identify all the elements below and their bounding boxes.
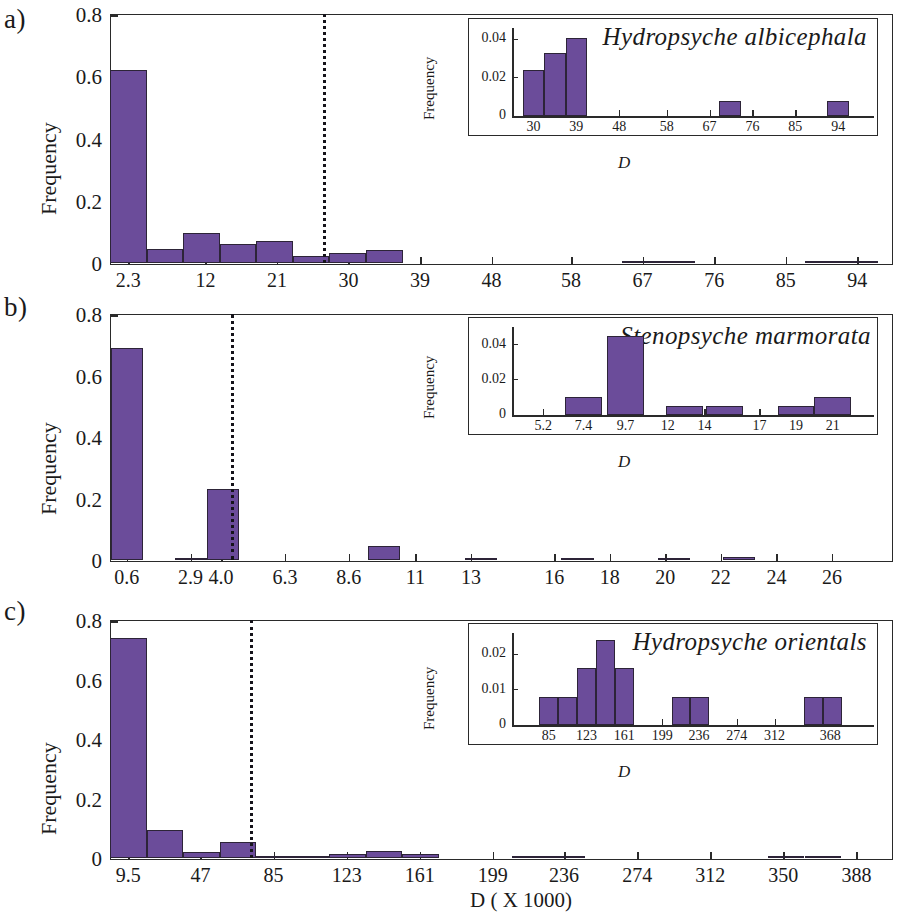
histogram-bar	[256, 241, 293, 263]
panel-a-ytick-mark	[110, 15, 118, 17]
inset-b-yaxis	[512, 327, 514, 415]
figure-xlabel: D ( X 1000)	[470, 888, 572, 913]
panel-b-xtick-mark	[349, 554, 351, 562]
panel-c-xtick-mark	[637, 852, 639, 860]
panel-c-xtick-mark	[856, 852, 858, 860]
panel-b-ytick: 0.6	[76, 365, 102, 390]
panel-b: b) Frequency Stenopsyche marmorata Frequ…	[0, 290, 899, 590]
inset-histogram-bar	[558, 697, 577, 725]
panel-a-xtick-mark	[786, 257, 788, 265]
panel-c-ytick: 0.6	[76, 669, 102, 694]
inset-histogram-bar	[778, 406, 815, 415]
inset-b-ytick-mark	[512, 379, 518, 380]
panel-a-ytick: 0.2	[76, 190, 102, 215]
inset-a-xtick-mark	[795, 110, 796, 116]
panel-c-xtick: 47	[160, 864, 240, 887]
histogram-bar	[183, 852, 220, 859]
inset-histogram-bar	[804, 697, 823, 725]
histogram-bar	[183, 233, 220, 263]
inset-histogram-bar	[565, 397, 602, 415]
histogram-bar	[465, 558, 497, 561]
panel-c-xtick: 274	[597, 864, 677, 887]
histogram-bar	[220, 244, 257, 264]
panel-a-xtick: 67	[603, 269, 683, 292]
panel-c-ytick: 0.4	[76, 728, 102, 753]
histogram-bar	[658, 261, 695, 264]
inset-a-xtick-mark	[752, 110, 753, 116]
inset-histogram-bar	[706, 406, 743, 415]
histogram-bar	[293, 856, 330, 859]
inset-c-ytick-mark	[512, 689, 518, 690]
inset-histogram-bar	[690, 697, 709, 725]
histogram-bar	[110, 70, 147, 264]
panel-b-xtick-mark	[415, 554, 417, 562]
histogram-bar	[622, 261, 659, 264]
panel-a-species-label: Hydropsyche albicephala	[603, 23, 867, 51]
panel-a-xtick-mark	[492, 257, 494, 265]
inset-c-xtick-mark	[662, 719, 663, 725]
panel-c-xtick: 161	[380, 864, 460, 887]
panel-b-xtick-mark	[285, 554, 287, 562]
histogram-bar	[366, 851, 403, 858]
panel-a-xtick: 94	[817, 269, 897, 292]
panel-c-letter: c)	[4, 596, 26, 627]
inset-a-ytick: 0.04	[482, 30, 507, 46]
panel-a-xtick: 48	[452, 269, 532, 292]
panel-a-xtick: 58	[531, 269, 611, 292]
inset-b-ytick: 0	[499, 406, 506, 422]
histogram-bar	[366, 250, 403, 263]
histogram-bar	[368, 546, 400, 560]
inset-b-xtick-mark	[543, 409, 544, 415]
inset-b-xaxis	[512, 415, 874, 417]
panel-b-species-label: Stenopsyche marmorata	[620, 322, 871, 350]
panel-a-xtick: 21	[237, 269, 317, 292]
inset-histogram-bar	[607, 336, 644, 415]
panel-c-ytick-mark	[110, 621, 118, 623]
threshold-dotted-line	[323, 14, 326, 263]
inset-histogram-bar	[814, 397, 851, 415]
panel-c-xtick: 199	[453, 864, 533, 887]
panel-c-inset: Hydropsyche orientals	[468, 623, 878, 745]
inset-histogram-bar	[596, 640, 615, 725]
histogram-bar	[329, 253, 366, 264]
panel-c-species-label: Hydropsyche orientals	[632, 628, 867, 656]
inset-c-ytick: 0	[499, 716, 506, 732]
histogram-bar	[805, 261, 842, 264]
panel-a-inset-ylabel: Frequency	[421, 57, 438, 120]
inset-a-xtick-mark	[667, 110, 668, 116]
inset-a-yaxis	[512, 28, 514, 116]
panel-a-xtick: 30	[308, 269, 388, 292]
panel-b-ytick: 0.4	[76, 426, 102, 451]
inset-a-ytick-mark	[512, 39, 518, 40]
panel-a-ytick: 0.4	[76, 128, 102, 153]
inset-histogram-bar	[544, 53, 565, 116]
inset-a-xtick-mark	[710, 110, 711, 116]
panel-b-inset-ylabel: Frequency	[421, 356, 438, 419]
histogram-bar	[561, 558, 593, 561]
panel-b-ylabel: Frequency	[36, 422, 62, 515]
histogram-bar	[207, 489, 239, 561]
panel-c-xtick: 312	[670, 864, 750, 887]
panel-c-xtick: 9.5	[88, 864, 168, 887]
histogram-bar	[175, 558, 207, 561]
histogram-bar	[723, 557, 755, 560]
panel-a-xtick-mark	[571, 257, 573, 265]
histogram-bar	[111, 348, 143, 560]
panel-b-ytick: 0.2	[76, 488, 102, 513]
inset-c-ytick: 0.02	[482, 645, 507, 661]
inset-a-xaxis	[512, 116, 874, 118]
inset-b-ytick: 0.02	[482, 371, 507, 387]
histogram-bar	[512, 856, 549, 859]
inset-b-xtick: 21	[803, 418, 863, 434]
inset-histogram-bar	[615, 668, 634, 725]
inset-c-ytick-mark	[512, 654, 518, 655]
inset-a-xtick-mark	[619, 110, 620, 116]
inset-histogram-bar	[672, 697, 691, 725]
panel-c-xtick-mark	[493, 852, 495, 860]
panel-b-ytick: 0.8	[76, 303, 102, 328]
panel-b-xtick-mark	[832, 554, 834, 562]
inset-histogram-bar	[566, 38, 587, 116]
panel-c: c) Frequency Hydropsyche orientals Frequ…	[0, 590, 899, 920]
inset-c-yaxis	[512, 633, 514, 725]
panel-b-ytick-mark	[110, 315, 118, 317]
